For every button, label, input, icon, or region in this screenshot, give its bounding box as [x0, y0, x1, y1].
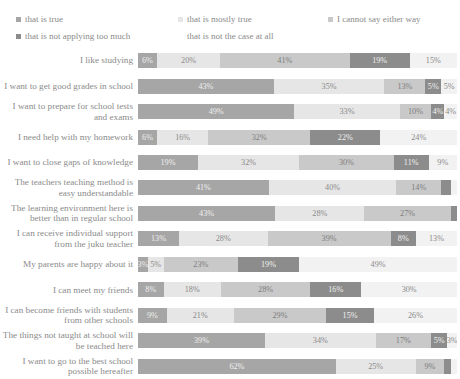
- bar-segment: [441, 180, 451, 195]
- bar-segment: 8%: [138, 282, 164, 297]
- bar-segment-value: 35%: [322, 82, 337, 91]
- row-category-label: My parents are happy about it: [0, 259, 138, 270]
- bar-segment-value: 17%: [396, 336, 411, 345]
- bar-segment-value: 29%: [272, 311, 287, 320]
- bar-segment-value: 20%: [181, 56, 196, 65]
- bar-segment-value: 3%: [447, 336, 457, 345]
- bar-segment: 16%: [310, 282, 361, 297]
- row-category-label: The things not taught at school will be …: [0, 330, 138, 351]
- legend-swatch-icon: [178, 34, 183, 39]
- bar-segment: 13%: [384, 79, 425, 94]
- chart-row: I want to get good grades in school43%35…: [0, 73, 460, 98]
- row-category-label: I want to get good grades in school: [0, 81, 138, 92]
- row-category-label: I can become friends with students from …: [0, 305, 138, 326]
- bar-segment: 16%: [157, 130, 208, 145]
- bar-segment-value: 32%: [252, 133, 267, 142]
- bar-segment: 28%: [221, 282, 310, 297]
- bar-segment: 20%: [157, 53, 220, 68]
- bar-segment: 40%: [269, 180, 397, 195]
- stacked-bar: 43%35%13%5%5%: [138, 79, 457, 94]
- chart-row: The learning environment here is better …: [0, 201, 460, 226]
- chart-row: The teachers teaching method is easy und…: [0, 175, 460, 200]
- bar-segment-value: 39%: [194, 336, 209, 345]
- bar-segment: 19%: [138, 155, 198, 170]
- bar-segment: 18%: [164, 282, 221, 297]
- chart-row: The things not taught at school will be …: [0, 328, 460, 353]
- bar-segment: 15%: [326, 308, 374, 323]
- bar-segment-value: 9%: [147, 311, 158, 320]
- bar-segment: 6%: [138, 53, 157, 68]
- bar-segment: 27%: [364, 206, 450, 221]
- bar-segment: 19%: [238, 257, 299, 272]
- bar-segment: 32%: [208, 130, 310, 145]
- bar-segment-value: 8%: [398, 234, 409, 243]
- bar-segment-value: 40%: [325, 183, 340, 192]
- bar-segment: 3%: [447, 333, 457, 348]
- bar-segment: 30%: [361, 282, 457, 297]
- bar-segment-value: 13%: [151, 234, 166, 243]
- bar-segment-value: 41%: [277, 56, 292, 65]
- stacked-bar-chart: I like studying6%20%41%19%15%I want to g…: [0, 48, 460, 379]
- bar-segment-value: 41%: [196, 183, 211, 192]
- bar-segment-value: 19%: [261, 260, 276, 269]
- bar-segment: 29%: [234, 308, 327, 323]
- bar-segment: 39%: [138, 333, 265, 348]
- legend-item[interactable]: that is mostly true: [178, 14, 328, 25]
- bar-segment: 4%: [444, 104, 457, 119]
- bar-segment: 28%: [275, 206, 364, 221]
- legend-label: that is mostly true: [187, 14, 252, 25]
- bar-segment: 9%: [416, 359, 445, 374]
- bar-segment-value: 15%: [343, 311, 358, 320]
- bar-segment-value: 13%: [429, 234, 444, 243]
- bar-segment: [451, 180, 457, 195]
- bar-segment-value: 22%: [338, 133, 353, 142]
- bar-segment-value: 27%: [400, 209, 415, 218]
- bar-segment: 28%: [179, 231, 267, 246]
- bar-segment-value: 6%: [142, 133, 153, 142]
- bar-segment: 4%: [431, 104, 444, 119]
- stacked-bar: 8%18%28%16%30%: [138, 282, 457, 297]
- bar-segment-value: 3%: [138, 260, 148, 269]
- chart-legend: that is truethat is mostly trueI cannot …: [0, 0, 460, 48]
- legend-item[interactable]: that is not the case at all: [178, 31, 328, 42]
- bar-segment: 6%: [138, 130, 157, 145]
- bar-segment: 5%: [441, 79, 457, 94]
- legend-swatch-icon: [16, 17, 21, 22]
- chart-row: I can meet my friends8%18%28%16%30%: [0, 277, 460, 302]
- bar-segment: 30%: [299, 155, 394, 170]
- chart-row: My parents are happy about it3%5%23%19%4…: [0, 252, 460, 277]
- bar-segment: 9%: [138, 308, 167, 323]
- bar-segment-value: 15%: [426, 56, 441, 65]
- legend-swatch-icon: [328, 17, 333, 22]
- bar-segment: 24%: [380, 130, 457, 145]
- row-category-label: I can meet my friends: [0, 285, 138, 296]
- bar-segment-value: 5%: [428, 82, 439, 91]
- bar-segment-value: 11%: [404, 158, 419, 167]
- bar-segment-value: 21%: [193, 311, 208, 320]
- bar-segment: 26%: [374, 308, 457, 323]
- bar-segment-value: 19%: [372, 56, 387, 65]
- bar-segment-value: 28%: [312, 209, 327, 218]
- bar-segment-value: 8%: [145, 285, 156, 294]
- row-category-label: The teachers teaching method is easy und…: [0, 177, 138, 198]
- legend-item[interactable]: that is true: [16, 14, 178, 25]
- legend-swatch-icon: [178, 17, 183, 22]
- bar-segment: 19%: [350, 53, 410, 68]
- bar-segment-value: 49%: [209, 107, 224, 116]
- bar-segment-value: 39%: [322, 234, 337, 243]
- legend-item[interactable]: that is not applying too much: [16, 31, 178, 42]
- bar-segment: 49%: [299, 257, 457, 272]
- bar-segment: 5%: [425, 79, 441, 94]
- stacked-bar: 9%21%29%15%26%: [138, 308, 457, 323]
- legend-item[interactable]: I cannot say either way: [328, 14, 458, 25]
- row-category-label: I want to go to the best school possible…: [0, 356, 138, 377]
- bar-segment-value: 62%: [229, 362, 244, 371]
- bar-segment: [451, 206, 457, 221]
- bar-segment: 9%: [429, 155, 457, 170]
- chart-row: I can receive individual support from th…: [0, 226, 460, 251]
- bar-segment-value: 43%: [199, 209, 214, 218]
- bar-segment-value: 5%: [150, 260, 161, 269]
- bar-segment-value: 16%: [175, 133, 190, 142]
- bar-segment-value: 49%: [371, 260, 386, 269]
- bar-segment-value: 14%: [411, 183, 426, 192]
